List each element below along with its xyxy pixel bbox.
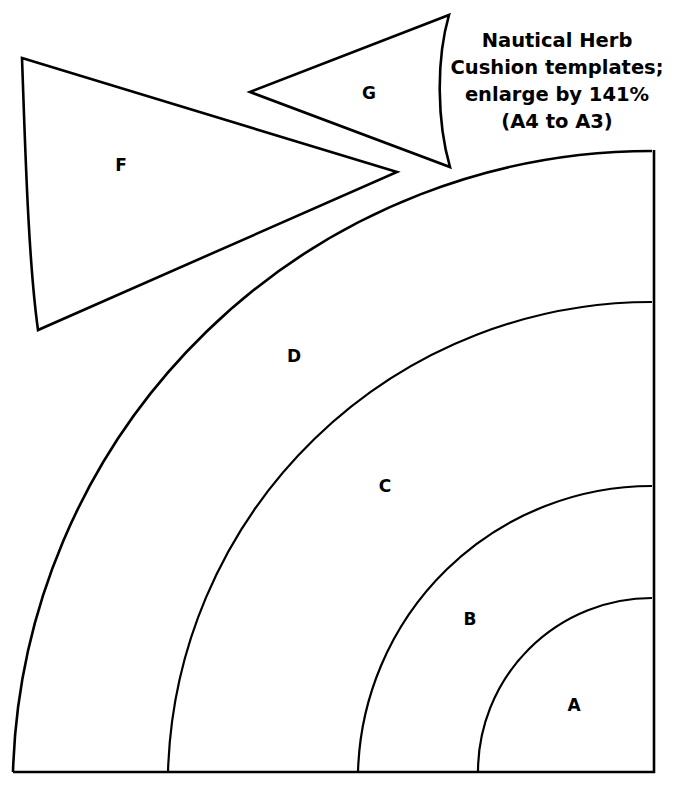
piece-label-d: D bbox=[287, 346, 301, 366]
pattern-drawing: A B C D F G Nautical Herb Cushion templa… bbox=[0, 0, 675, 794]
piece-label-c: C bbox=[379, 476, 391, 496]
piece-label-a: A bbox=[567, 695, 581, 715]
note-line-2: Cushion templates; bbox=[450, 56, 663, 79]
square-frame-outline bbox=[13, 150, 654, 772]
arc-outer-d bbox=[13, 151, 652, 772]
piece-f-outline bbox=[22, 58, 397, 330]
arc-divider-a-b bbox=[478, 598, 652, 772]
piece-label-f: F bbox=[115, 155, 127, 175]
note-line-3: enlarge by 141% bbox=[465, 83, 649, 106]
piece-label-g: G bbox=[362, 83, 376, 103]
piece-label-b: B bbox=[464, 609, 477, 629]
arc-divider-b-c bbox=[358, 486, 652, 772]
pattern-sheet: A B C D F G Nautical Herb Cushion templa… bbox=[0, 0, 675, 794]
note-line-4: (A4 to A3) bbox=[501, 110, 612, 133]
note-line-1: Nautical Herb bbox=[482, 29, 633, 52]
piece-g-outline bbox=[250, 15, 450, 167]
